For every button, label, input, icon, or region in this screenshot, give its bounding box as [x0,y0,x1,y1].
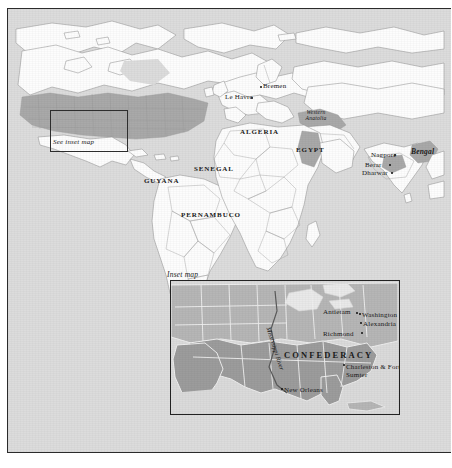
see-inset-map-note: See inset map [53,139,94,146]
label-charleston-fort-sumter: Charleston & Fort Sumter [346,363,400,379]
label-western-anatolia: Western Anatolia [301,110,331,122]
label-nagpore: Nagpore [371,152,397,159]
label-bengal: Bengal [411,148,434,156]
label-confederacy: CONFEDERACY [284,351,373,360]
label-richmond: Richmond [323,331,354,338]
label-guyana: GUYANA [144,178,179,185]
label-le-havre: Le Havre [225,94,253,101]
label-antietam: Antietam [323,309,351,316]
label-alexandria: Alexandria [363,321,396,328]
inset-map-frame: Mississippi River CONFEDERACY Antietam W… [170,280,400,415]
label-pernambuco: PERNAMBUCO [181,212,241,219]
world-map-plate: See inset map Bremen Le Havre ALGERIA EG… [7,8,451,453]
label-algeria: ALGERIA [240,129,279,136]
label-washington: Washington [362,312,397,319]
label-egypt: EGYPT [296,147,325,154]
label-dharwar: Dharwar [362,170,388,177]
label-new-orleans: New Orleans [284,387,323,394]
label-bremen: Bremen [263,83,286,90]
map-figure: See inset map Bremen Le Havre ALGERIA EG… [0,0,452,468]
inset-map-title: Inset map [167,271,198,279]
label-senegal: SENEGAL [194,166,234,173]
label-berar: Berar [365,162,382,169]
